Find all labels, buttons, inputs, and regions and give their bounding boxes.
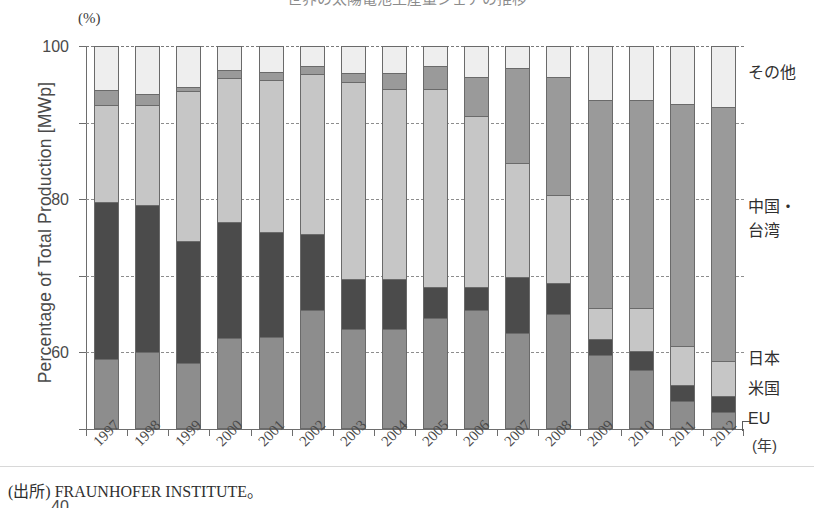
x-axis-tick bbox=[374, 429, 375, 436]
bar-segment-cn bbox=[630, 101, 653, 309]
bar-segment-ot bbox=[712, 47, 735, 108]
x-axis-tick bbox=[127, 429, 128, 436]
bar-segment-ot bbox=[671, 47, 694, 105]
y-axis-tick: 100 bbox=[79, 46, 86, 47]
bar-2011[interactable] bbox=[670, 46, 695, 429]
bar-segment-us bbox=[383, 280, 406, 330]
bar-segment-us bbox=[95, 203, 118, 360]
x-axis-tick bbox=[292, 429, 293, 436]
bar-segment-ot bbox=[218, 47, 241, 71]
bar-segment-jp bbox=[547, 196, 570, 284]
bar-segment-jp bbox=[218, 79, 241, 223]
y-axis-line bbox=[86, 46, 87, 430]
bar-segment-ot bbox=[424, 47, 447, 67]
bar-segment-ot bbox=[506, 47, 529, 69]
x-axis-tick bbox=[662, 429, 663, 436]
bar-segment-us bbox=[218, 223, 241, 339]
bar-segment-jp bbox=[95, 106, 118, 203]
bar-segment-us bbox=[465, 288, 488, 312]
y-axis-tick-label: 80 bbox=[51, 191, 69, 209]
bar-segment-us bbox=[671, 386, 694, 402]
bar-segment-us bbox=[136, 206, 159, 352]
bar-segment-eu bbox=[301, 311, 324, 428]
bar-segment-eu bbox=[383, 330, 406, 428]
chart-page: 世界の太陽電池生産量シェアの推移 (%) Percentage of Total… bbox=[0, 0, 814, 508]
bar-segment-us bbox=[342, 280, 365, 330]
x-axis-tick bbox=[333, 429, 334, 436]
bottom-divider bbox=[0, 466, 814, 467]
bar-2005[interactable] bbox=[423, 46, 448, 429]
source-note: (出所) FRAUNHOFER INSTITUTE。 bbox=[8, 478, 263, 502]
bar-segment-cn bbox=[712, 108, 735, 362]
bar-segment-eu bbox=[589, 356, 612, 428]
bar-segment-jp bbox=[506, 164, 529, 278]
bar-segment-cn bbox=[260, 73, 283, 82]
bar-segment-eu bbox=[177, 364, 200, 428]
y-axis-tick: 80 bbox=[79, 123, 86, 124]
y-axis-tick: 40 bbox=[79, 276, 86, 277]
legend-label-china-taiwan-2: 台湾 bbox=[748, 222, 780, 240]
legend-label-other: その他 bbox=[748, 64, 796, 82]
y-axis-title: Percentage of Total Production [MWp] bbox=[35, 33, 56, 433]
y-axis-tick-label: 100 bbox=[42, 38, 69, 56]
bar-segment-cn bbox=[465, 78, 488, 117]
bar-segment-eu bbox=[218, 339, 241, 428]
x-axis-tick bbox=[621, 429, 622, 436]
bar-segment-eu bbox=[136, 353, 159, 428]
bar-segment-jp bbox=[712, 362, 735, 397]
bar-segment-jp bbox=[424, 90, 447, 287]
bar-segment-ot bbox=[136, 47, 159, 95]
bar-1999[interactable] bbox=[176, 46, 201, 429]
bar-segment-jp bbox=[342, 83, 365, 280]
bar-segment-ot bbox=[630, 47, 653, 101]
x-axis-tick bbox=[209, 429, 210, 436]
bar-2008[interactable] bbox=[546, 46, 571, 429]
bar-segment-cn bbox=[383, 74, 406, 90]
y-axis-tick: 60 bbox=[79, 199, 86, 200]
bar-segment-us bbox=[547, 284, 570, 315]
bar-2003[interactable] bbox=[341, 46, 366, 429]
bar-segment-eu bbox=[506, 334, 529, 428]
plot-area: 020406080100 199719981999200020012002200… bbox=[86, 46, 744, 430]
x-axis-tick bbox=[538, 429, 539, 436]
bar-2000[interactable] bbox=[217, 46, 242, 429]
bar-2001[interactable] bbox=[259, 46, 284, 429]
bar-2006[interactable] bbox=[464, 46, 489, 429]
bar-segment-jp bbox=[177, 92, 200, 242]
bar-segment-cn bbox=[547, 78, 570, 196]
bar-segment-cn bbox=[671, 105, 694, 347]
bar-segment-us bbox=[506, 278, 529, 334]
bar-segment-us bbox=[424, 288, 447, 319]
bar-segment-us bbox=[260, 233, 283, 338]
y-axis-unit-label: (%) bbox=[78, 10, 101, 27]
x-axis-tick bbox=[703, 429, 704, 436]
x-axis-tick bbox=[456, 429, 457, 436]
bar-segment-cn bbox=[136, 95, 159, 105]
x-axis-unit-label: (年) bbox=[752, 434, 777, 455]
bar-segment-ot bbox=[547, 47, 570, 78]
bar-2009[interactable] bbox=[588, 46, 613, 429]
bar-segment-cn bbox=[218, 71, 241, 80]
bar-2010[interactable] bbox=[629, 46, 654, 429]
bar-segment-cn bbox=[589, 101, 612, 309]
bar-2012[interactable] bbox=[711, 46, 736, 429]
bar-segment-cn bbox=[95, 91, 118, 105]
legend-label-eu: EU bbox=[748, 410, 770, 428]
bar-1997[interactable] bbox=[94, 46, 119, 429]
bar-segment-ot bbox=[342, 47, 365, 74]
bar-segment-eu bbox=[260, 338, 283, 428]
x-axis-tick bbox=[497, 429, 498, 436]
bar-segment-eu bbox=[424, 319, 447, 428]
bar-2007[interactable] bbox=[505, 46, 530, 429]
bar-segment-eu bbox=[95, 360, 118, 428]
bar-segment-jp bbox=[136, 106, 159, 207]
bar-segment-cn bbox=[301, 67, 324, 76]
bar-segment-cn bbox=[342, 74, 365, 83]
bar-segment-ot bbox=[383, 47, 406, 74]
bar-2004[interactable] bbox=[382, 46, 407, 429]
bar-segment-ot bbox=[95, 47, 118, 91]
bar-segment-us bbox=[589, 340, 612, 356]
bar-2002[interactable] bbox=[300, 46, 325, 429]
bar-1998[interactable] bbox=[135, 46, 160, 429]
bar-segment-ot bbox=[465, 47, 488, 78]
